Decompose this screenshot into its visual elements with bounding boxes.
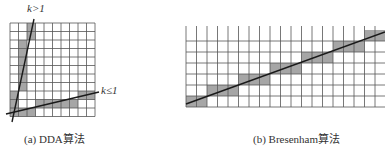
panel-bresenham: (b) Bresenham算法 — [140, 0, 385, 152]
caption-bresenham: (b) Bresenham算法 — [253, 130, 340, 146]
shaded-pixel — [19, 40, 28, 49]
shaded-pixel — [70, 100, 79, 109]
label-k-greater-1: k>1 — [27, 2, 45, 14]
caption-dda: (a) DDA算法 — [24, 130, 85, 146]
shaded-pixel — [19, 74, 28, 83]
bresenham-line — [186, 32, 385, 104]
steep-line — [12, 19, 34, 122]
label-k-less-equal-1: k≤1 — [101, 84, 117, 96]
panel-dda: k>1 k≤1 (a) DDA算法 — [0, 0, 140, 152]
